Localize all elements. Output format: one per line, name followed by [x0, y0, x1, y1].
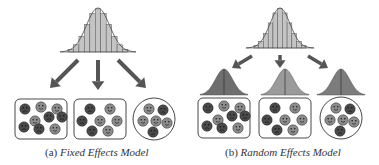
panel-b-group-1-face	[297, 115, 307, 125]
caption-a: (a) Fixed Effects Model	[45, 146, 149, 158]
panel-a-group-1-face	[95, 116, 105, 126]
panel-a-group-0-face-eye	[63, 115, 64, 116]
panel-b-group-0-face-eye	[216, 118, 217, 119]
figure-canvas	[0, 0, 379, 165]
panel-a-group-2-face-eye	[147, 107, 148, 108]
panel-a-arrow-left-shaft	[56, 60, 78, 82]
panel-b-group-1-face-eye	[268, 118, 269, 119]
panel-b-group-2-face	[345, 104, 355, 114]
panel-a-group-1-face-eye	[109, 129, 110, 130]
panel-b-group-1-face-eye	[291, 128, 292, 129]
panel-a-group-1-face-eye	[91, 107, 92, 108]
panel-a-group-0-face-eye	[56, 127, 57, 128]
panel-a-histogram-bar	[68, 49, 73, 52]
panel-b-group-2-face-eye	[344, 118, 345, 119]
panel-a-group-1-face-eye	[106, 129, 107, 130]
panel-a-group-1-face	[105, 104, 115, 114]
panel-b-group-0-face-eye	[219, 118, 220, 119]
panel-a-histogram-bar	[90, 13, 95, 52]
panel-a-arrow-right-shaft	[118, 60, 140, 82]
panel-a-group-2-face	[148, 127, 158, 137]
panel-b-histogram-bar	[273, 13, 278, 48]
panel-a-group-0-face	[19, 122, 29, 132]
panel-b-group-1-face-eye	[293, 106, 294, 107]
panel-b-histogram-bar	[297, 41, 302, 48]
panel-b-group-2-face-eye	[355, 120, 356, 121]
panel-b-group-0-face	[240, 111, 250, 121]
panel-a-group-1-face-eye	[115, 119, 116, 120]
panel-a-group-0-face-eye	[60, 115, 61, 116]
panel-a-group-1-face	[112, 116, 122, 126]
panel-a-group-2-face-eye	[151, 130, 152, 131]
caption-a-prefix: (a)	[45, 146, 57, 158]
panel-b-group-0-face-eye	[209, 106, 210, 107]
panel-a-group-0-face	[57, 112, 67, 122]
panel-a-group-2-face	[162, 118, 172, 128]
panel-a-group-1-face-eye	[80, 119, 81, 120]
panel-b-group-0-face-eye	[220, 126, 221, 127]
panel-a-group-2-face	[158, 105, 168, 115]
panel-b-group-1-face	[280, 115, 290, 125]
panel-b-group-2-face	[325, 115, 335, 125]
panel-b-group-0-face	[227, 111, 237, 121]
panel-a-histogram-bar	[95, 9, 100, 52]
panel-b-group-0-face-eye	[230, 114, 231, 115]
panel-b-histogram-bar	[259, 41, 264, 48]
panel-a-histogram-bar	[112, 36, 117, 52]
panel-a-group-0-face-eye	[40, 127, 41, 128]
panel-b-group-1-face-eye	[275, 128, 276, 129]
panel-a-group-2-face-eye	[154, 130, 155, 131]
caption-b-prefix: (b)	[225, 146, 238, 158]
panel-a-group-2-face-eye	[157, 119, 158, 120]
panel-a-group-2-face-eye	[164, 108, 165, 109]
panel-b-group-0-face-eye	[241, 106, 242, 107]
panel-b-arrow-right-shaft	[308, 56, 321, 64]
panel-a-group-0-face-eye	[39, 105, 40, 106]
panel-a-group-0-face-eye	[23, 107, 24, 108]
panel-a-histogram-bar	[101, 13, 106, 52]
panel-b-group-0-face	[217, 123, 227, 133]
panel-b-group-0-face-eye	[205, 124, 206, 125]
panel-a-group-0-face	[50, 124, 60, 134]
panel-b-group-0-face-eye	[222, 104, 223, 105]
panel-b-group-2-face-eye	[337, 106, 338, 107]
panel-a-group-2-face-eye	[168, 121, 169, 122]
panel-b-group-2-face	[338, 115, 348, 125]
panel-a-group-0-face-eye	[37, 127, 38, 128]
panel-b-group-0-face	[202, 121, 212, 131]
panel-a-group-0-face-eye	[55, 107, 56, 108]
panel-a-histogram-bar	[117, 45, 122, 52]
panel-a-group-0-face-eye	[26, 107, 27, 108]
panel-b-group-2-face	[349, 117, 359, 127]
panel-a-group-0-face	[20, 104, 30, 114]
panel-a-group-2-face	[138, 116, 148, 126]
panel-a-group-0-face-eye	[50, 115, 51, 116]
panel-b-group-1-face-eye	[278, 128, 279, 129]
panel-a-group-0-face	[34, 124, 44, 134]
panel-a-histogram-bar	[79, 36, 84, 52]
panel-b-group-1-face	[262, 115, 272, 125]
panel-b-group-0-face-eye	[243, 114, 244, 115]
panel-a-group-1-face-eye	[88, 107, 89, 108]
panel-a-group-0-face-eye	[33, 119, 34, 120]
caption-b-title: Random Effects Model	[241, 146, 341, 158]
panel-a-group-2-face-eye	[161, 108, 162, 109]
panel-a-group-0-face	[44, 112, 54, 122]
panel-a-group-2-face-eye	[141, 119, 142, 120]
panel-b-arrow-left-shaft	[239, 56, 252, 64]
panel-a-group-2-face	[151, 116, 161, 126]
panel-b-group-1-face	[288, 125, 298, 135]
caption-b: (b) Random Effects Model	[225, 146, 341, 158]
panel-a-group-1-face-eye	[118, 119, 119, 120]
panel-b-group-0-face-eye	[233, 114, 234, 115]
panel-a-group-0-face-eye	[25, 125, 26, 126]
panel-b-group-1-face	[290, 103, 300, 113]
panel-b-group-0-face	[203, 103, 213, 113]
panel-b-group-1-face-eye	[296, 106, 297, 107]
panel-b-group-1-face-eye	[265, 118, 266, 119]
panel-a-group-1-face-eye	[111, 107, 112, 108]
panel-b-group-2-face-eye	[341, 118, 342, 119]
panel-b-group-1-face	[272, 125, 282, 135]
panel-b-group-0-face-eye	[225, 104, 226, 105]
panel-b-group-0-face-eye	[206, 106, 207, 107]
